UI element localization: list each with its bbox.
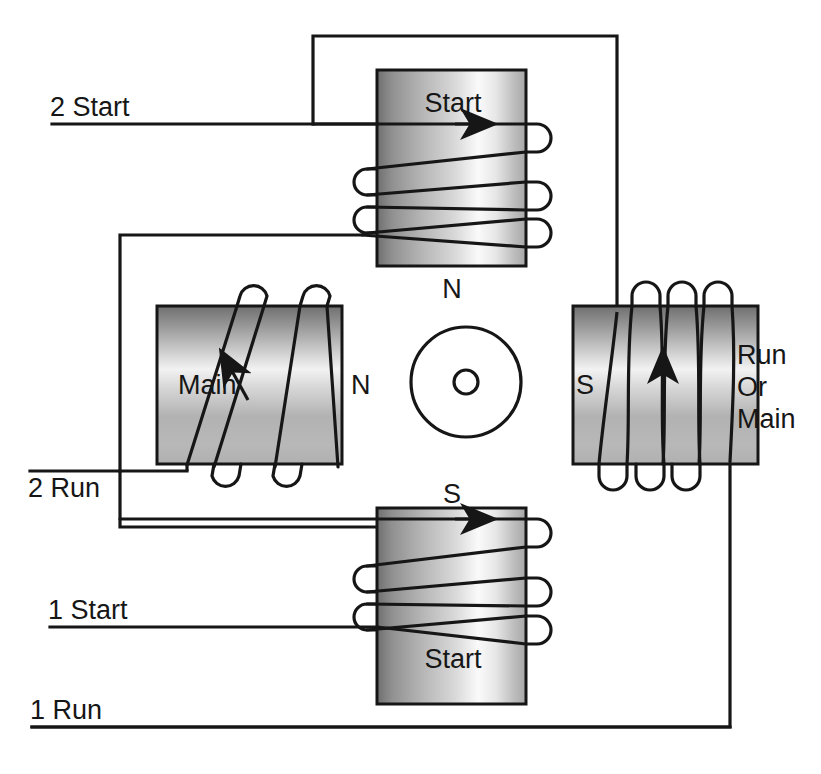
coil-loop-right-3 xyxy=(526,616,551,644)
coil-loop-top-1 xyxy=(632,282,660,306)
rotor-shaft-circle xyxy=(454,370,478,394)
coil-loop-left-top xyxy=(354,566,377,592)
coil-loop-right-2 xyxy=(526,578,551,606)
pole-top: Start N xyxy=(313,70,551,304)
coil-loop-bottom-1 xyxy=(212,464,241,486)
diagram-canvas: Start N Main N xyxy=(0,0,821,774)
pole-right-polarity-label: S xyxy=(576,370,594,400)
pole-right-winding-label-line1: Run xyxy=(737,340,787,370)
rotor xyxy=(411,327,521,437)
pole-bottom-winding-label: Start xyxy=(424,644,482,674)
coil-loop-bottom-2 xyxy=(273,464,302,486)
coil-loop-right-1 xyxy=(526,519,551,547)
coil-loop-top-2 xyxy=(300,286,330,306)
winding-diagram: Start N Main N xyxy=(0,0,821,774)
pole-left-winding-label: Main xyxy=(178,370,237,400)
pole-top-winding-label: Start xyxy=(424,88,482,118)
coil-loop-top-3 xyxy=(704,282,732,306)
terminal-label-2-run: 2 Run xyxy=(28,473,100,503)
coil-loop-bottom-2 xyxy=(636,464,664,490)
terminal-label-1-run: 1 Run xyxy=(30,695,102,725)
pole-left: Main N xyxy=(157,286,371,487)
coil-loop-top-1 xyxy=(237,286,267,306)
pole-right: S Run Or Main xyxy=(573,282,796,490)
coil-tail-2 xyxy=(367,604,526,606)
coil-loop-right-1 xyxy=(526,124,551,152)
pole-right-winding-label-line2: Or xyxy=(737,372,767,402)
pole-top-polarity-label: N xyxy=(442,274,462,304)
terminal-label-1-start: 1 Start xyxy=(48,595,128,625)
pole-bottom: S Start xyxy=(120,479,551,704)
rotor-outer-circle xyxy=(411,327,521,437)
coil-loop-left-top xyxy=(354,169,377,195)
coil-loop-right-2 xyxy=(526,182,551,210)
pole-left-polarity-label: N xyxy=(351,370,371,400)
pole-bottom-polarity-label: S xyxy=(443,479,461,509)
terminal-label-group: 2 Start 2 Run 1 Start 1 Run xyxy=(28,92,130,725)
coil-loop-right-3 xyxy=(526,219,551,247)
coil-loop-bottom-3 xyxy=(672,464,700,490)
coil-loop-top-2 xyxy=(668,282,696,306)
pole-right-winding-label-line3: Main xyxy=(737,404,796,434)
terminal-label-2-start: 2 Start xyxy=(50,92,130,122)
coil-loop-left-bottom xyxy=(354,207,377,233)
coil-loop-bottom-1 xyxy=(599,464,627,490)
